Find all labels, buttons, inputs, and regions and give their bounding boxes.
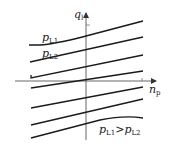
curve-label-pl1: pL1 (42, 32, 58, 45)
curve-label-pl2: pL2 (42, 48, 58, 61)
y-axis-label: ql (74, 9, 83, 22)
curve-5 (31, 87, 143, 108)
diagram-graphics (0, 0, 170, 148)
curve-6 (31, 99, 143, 125)
characteristic-diagram: ql np pL1 pL2 pL1>pL2 (0, 0, 170, 148)
x-axis-label: np (149, 84, 161, 97)
curve-4 (31, 71, 143, 88)
relation-label: pL1>pL2 (99, 124, 141, 137)
